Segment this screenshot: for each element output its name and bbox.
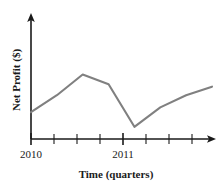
x-tick-label-2011: 2011 — [112, 148, 134, 160]
x-tick-label-2010: 2010 — [20, 148, 43, 160]
x-axis-title: Time (quarters) — [79, 168, 154, 181]
line-chart: · · 2010 2011 Time — [0, 0, 222, 185]
y-axis-title: Net Profit ($) — [10, 49, 23, 111]
chart-canvas: 2010 2011 Time (quarters) Net Profit ($) — [0, 0, 222, 185]
